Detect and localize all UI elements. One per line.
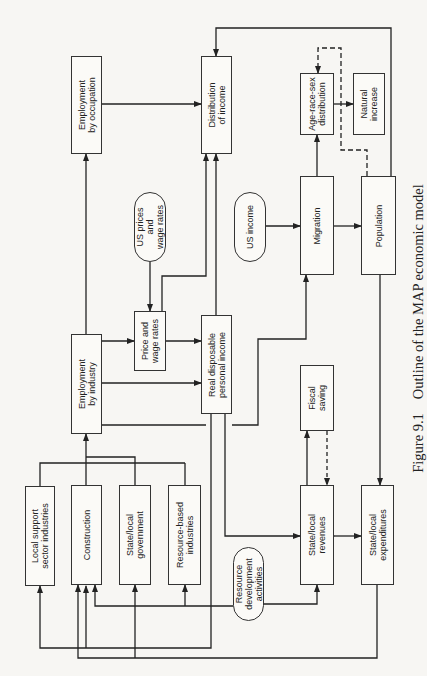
node-label: Real disposable personal income bbox=[207, 331, 227, 397]
figure-caption: Figure 9.1Outline of the MAP economic mo… bbox=[393, 184, 427, 480]
node-age-race-sex-distribution: Age-race-sex distribution bbox=[300, 73, 334, 135]
node-state-local-revenues: State/local revenues bbox=[300, 485, 334, 585]
node-population: Population bbox=[361, 176, 396, 275]
node-resource-based-industries: Resource-based industries bbox=[168, 485, 201, 585]
node-fiscal-saving: Fiscal saving bbox=[300, 365, 334, 431]
node-label: Resource-based industries bbox=[175, 502, 195, 568]
node-us-income: US income bbox=[234, 192, 266, 262]
node-migration: Migration bbox=[300, 176, 334, 275]
node-natural-increase: Natural increase bbox=[353, 73, 385, 135]
node-label: State/local expenditures bbox=[368, 509, 388, 561]
node-real-disposable-personal-income: Real disposable personal income bbox=[201, 315, 232, 414]
node-label: Age-race-sex distribution bbox=[307, 77, 327, 131]
node-label: Construction bbox=[82, 510, 92, 561]
node-label: Local support sector industries bbox=[30, 503, 50, 569]
node-construction: Construction bbox=[71, 485, 102, 585]
node-employment-by-industry: Employment by industry bbox=[71, 334, 102, 434]
node-label: Resource development activities bbox=[234, 558, 264, 610]
node-price-and-wage-rates: Price and wage rates bbox=[134, 311, 166, 371]
node-label: Fiscal saving bbox=[307, 385, 327, 411]
figure-number: Figure 9.1 bbox=[410, 413, 426, 473]
node-label: Population bbox=[374, 204, 384, 247]
node-label: State/local government bbox=[125, 511, 145, 559]
node-label: Distribution of income bbox=[207, 82, 227, 127]
node-state-local-expenditures: State/local expenditures bbox=[361, 485, 394, 585]
figure-title: Outline of the MAP economic model bbox=[410, 184, 426, 399]
node-label: Employment by occupation bbox=[77, 77, 97, 133]
node-label: US prices and wage rates bbox=[135, 205, 165, 249]
node-employment-by-occupation: Employment by occupation bbox=[71, 56, 102, 154]
node-label: Migration bbox=[312, 207, 322, 244]
node-label: Natural increase bbox=[359, 87, 379, 121]
node-label: Employment by industry bbox=[77, 359, 97, 409]
node-label: State/local revenues bbox=[307, 514, 327, 556]
node-distribution-of-income: Distribution of income bbox=[201, 56, 232, 154]
node-us-prices-and-wage-rates: US prices and wage rates bbox=[134, 192, 166, 262]
node-label: US income bbox=[245, 205, 255, 249]
node-resource-development-activities: Resource development activities bbox=[233, 547, 264, 621]
node-label: Price and wage rates bbox=[140, 319, 160, 363]
node-state-local-government: State/local government bbox=[119, 485, 151, 585]
node-local-support-sector-industries: Local support sector industries bbox=[25, 486, 55, 586]
